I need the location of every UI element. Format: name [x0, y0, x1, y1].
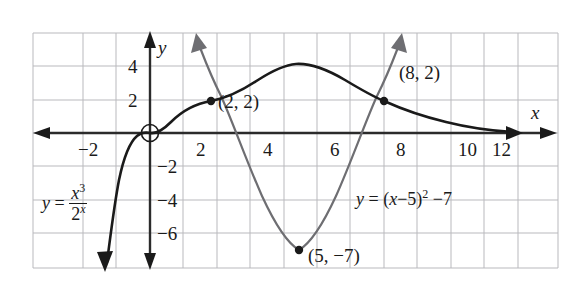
x-tick-label-4: 4 — [263, 140, 273, 159]
equation-parabola-open: (x — [383, 189, 397, 209]
y-tick-label-4: 4 — [128, 57, 138, 76]
equation-cubic-denominator: 2x — [69, 204, 87, 223]
equation-cubic-numerator: x3 — [69, 184, 87, 204]
equation-cubic-lhs: y — [42, 193, 50, 213]
y-axis-label: y — [158, 38, 166, 57]
equation-parabola-constant: 7 — [443, 189, 452, 209]
equation-parabola-exponent: 2 — [422, 187, 428, 201]
equation-parabola: y = (x−5)2 −7 — [356, 190, 452, 208]
equation-cubic-equals: = — [55, 193, 65, 213]
equation-parabola-minus1: − — [397, 189, 407, 209]
point-label-5-neg7: (5, −7) — [308, 246, 360, 265]
x-tick-label-2: 2 — [196, 140, 206, 159]
point-marker-8-2 — [380, 97, 388, 105]
math-figure: −2 2 4 6 8 10 12 4 2 −2 −4 −6 x y (2, 2)… — [0, 0, 586, 283]
equation-cubic-exponential: y = x3 2x — [42, 185, 87, 224]
y-tick-label-2: 2 — [128, 91, 138, 110]
equation-cubic-fraction: x3 2x — [69, 184, 87, 223]
y-tick-label-neg2: −2 — [157, 157, 177, 176]
point-label-2-2: (2, 2) — [218, 92, 259, 111]
x-axis-label: x — [531, 103, 539, 122]
equation-parabola-equals: = — [369, 189, 379, 209]
point-marker-2-2 — [207, 97, 215, 105]
point-label-8-2: (8, 2) — [399, 63, 440, 82]
equation-parabola-minus2: − — [433, 189, 443, 209]
x-tick-label-10: 10 — [458, 140, 477, 159]
y-tick-label-neg4: −4 — [157, 191, 177, 210]
point-marker-5-neg7 — [295, 246, 303, 254]
x-tick-label-12: 12 — [492, 140, 511, 159]
x-tick-label-6: 6 — [330, 140, 340, 159]
equation-parabola-lhs: y — [356, 189, 364, 209]
x-tick-label-neg2: −2 — [78, 140, 98, 159]
y-tick-label-neg6: −6 — [157, 224, 177, 243]
x-tick-label-8: 8 — [396, 140, 406, 159]
equation-parabola-close: 5) — [407, 189, 422, 209]
